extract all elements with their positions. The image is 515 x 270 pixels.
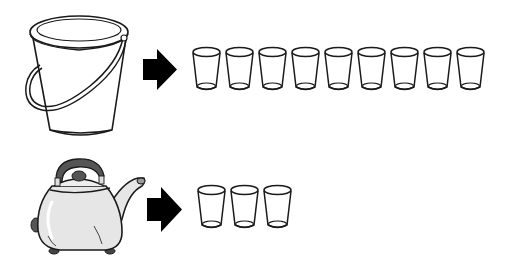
arrow-right-icon (147, 187, 182, 232)
cup-icon (262, 184, 293, 230)
row-bucket: bucket 9 (0, 0, 515, 140)
row-kettle: kettle 3 (0, 140, 515, 270)
cup-icon (356, 46, 387, 92)
cup-icon (257, 46, 288, 92)
cup-icon (196, 184, 227, 230)
cup-icon (323, 46, 354, 92)
bucket-icon (20, 8, 138, 140)
cup-row-bucket (191, 46, 488, 92)
kettle-icon (30, 156, 148, 256)
cup-icon (224, 46, 255, 92)
cup-icon (389, 46, 420, 92)
arrow-right-icon (143, 49, 177, 90)
cup-icon (290, 46, 321, 92)
cup-icon (191, 46, 222, 92)
cup-icon (422, 46, 453, 92)
cup-icon (229, 184, 260, 230)
cup-row-kettle (196, 184, 295, 230)
cup-icon (455, 46, 486, 92)
